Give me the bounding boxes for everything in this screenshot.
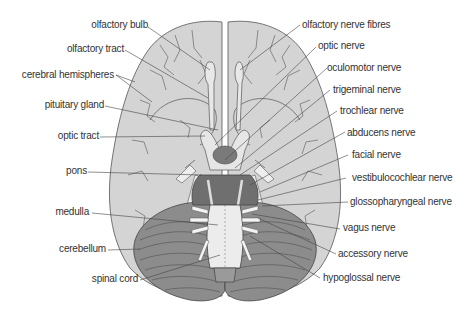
label-pituitary-gland: pituitary gland <box>45 99 104 111</box>
label-optic-tract: optic tract <box>58 130 99 142</box>
label-optic-nerve: optic nerve <box>318 40 365 52</box>
label-olfactory-tract: olfactory tract <box>67 43 124 55</box>
label-trigeminal-nerve: trigeminal nerve <box>333 84 401 96</box>
label-glossopharyngeal-nerve: glossopharyngeal nerve <box>350 196 452 208</box>
label-olfactory-bulb: olfactory bulb <box>91 19 148 31</box>
brain-diagram: olfactory bulb olfactory tract cerebral … <box>0 0 472 310</box>
label-vestibulocochlear-nerve: vestibulocochlear nerve <box>352 172 452 184</box>
label-hypoglossal-nerve: hypoglossal nerve <box>323 272 400 284</box>
label-cerebral-hemispheres: cerebral hemispheres <box>22 69 114 81</box>
label-olfactory-nerve-fibres: olfactory nerve fibres <box>302 19 390 31</box>
label-vagus-nerve: vagus nerve <box>343 222 395 234</box>
label-oculomotor-nerve: oculomotor nerve <box>327 62 401 74</box>
pons <box>192 175 258 205</box>
olfactory-structures <box>205 62 243 130</box>
label-spinal-cord: spinal cord <box>92 273 138 285</box>
label-cerebellum: cerebellum <box>59 243 106 255</box>
label-pons: pons <box>66 165 87 177</box>
label-accessory-nerve: accessory nerve <box>338 248 408 260</box>
label-facial-nerve: facial nerve <box>352 149 401 161</box>
spinal-cord <box>214 268 236 282</box>
label-trochlear-nerve: trochlear nerve <box>340 105 404 117</box>
label-medulla: medulla <box>55 206 89 218</box>
label-abducens-nerve: abducens nerve <box>347 127 415 139</box>
